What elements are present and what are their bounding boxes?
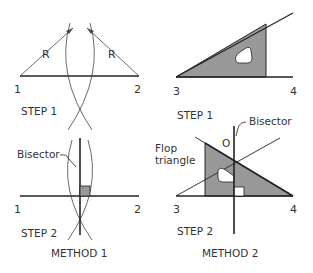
method1-step1: R R 1 2 STEP 1: [14, 23, 141, 130]
bisector-label: Bisector: [249, 115, 292, 127]
step2-label: STEP 2: [177, 225, 213, 237]
flop-label-line1: Flop: [155, 142, 177, 154]
point-3-label: 3: [173, 203, 180, 216]
right-angle-marker: [80, 186, 90, 196]
method2-title: METHOD 2: [202, 247, 258, 259]
bisector-label: Bisector: [17, 148, 60, 160]
method2-step2: Bisector O Flop triangle 3 4 STEP 2 METH…: [155, 115, 297, 259]
point-4-label: 4: [290, 85, 297, 98]
point-2-label: 2: [134, 203, 141, 216]
point-1-label: 1: [14, 83, 21, 96]
second-diagonal-extension: [195, 137, 205, 143]
right-angle-marker: [234, 187, 244, 196]
point-1-label: 1: [14, 203, 21, 216]
step2-label: STEP 2: [21, 227, 57, 239]
point-3-label: 3: [173, 85, 180, 98]
method1-step2: Bisector 1 2 STEP 2 METHOD 1: [14, 138, 141, 259]
step1-label: STEP 1: [177, 109, 213, 121]
point-o-label: O: [222, 137, 230, 149]
radius-label-left: R: [42, 48, 50, 61]
flop-label-line2: triangle: [155, 154, 195, 166]
point-2-label: 2: [134, 83, 141, 96]
radius-label-right: R: [108, 48, 116, 61]
bisector-leader: [236, 122, 246, 136]
step1-label: STEP 1: [21, 105, 57, 117]
method1-title: METHOD 1: [51, 247, 107, 259]
method2-step1: 3 4 STEP 1: [173, 13, 297, 121]
bisector-construction-diagram: R R 1 2 STEP 1 3 4 STEP 1 Bisector 1 2 S…: [0, 0, 313, 273]
point-4-label: 4: [290, 203, 297, 216]
